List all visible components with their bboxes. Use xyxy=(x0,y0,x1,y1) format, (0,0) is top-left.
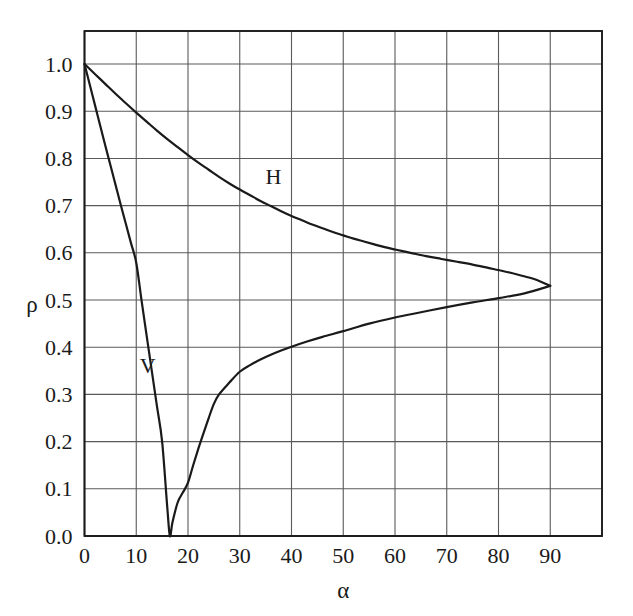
x-tick-label: 20 xyxy=(177,543,199,568)
x-tick-label: 40 xyxy=(281,543,303,568)
y-tick-label: 1.0 xyxy=(45,52,73,77)
y-tick-label: 0.4 xyxy=(45,335,73,360)
chart-canvas: 0.00.10.20.30.40.50.60.70.80.91.0 010203… xyxy=(0,0,633,616)
y-tick-label: 0.7 xyxy=(45,193,73,218)
curve-label-h: H xyxy=(265,164,281,189)
x-tick-label: 90 xyxy=(539,543,561,568)
x-tick-label: 30 xyxy=(229,543,251,568)
x-tick-label: 50 xyxy=(332,543,354,568)
y-tick-label: 0.1 xyxy=(45,476,73,501)
x-tick-label: 0 xyxy=(79,543,90,568)
x-tick-label: 80 xyxy=(488,543,510,568)
x-axis-title: α xyxy=(337,578,349,603)
y-tick-label: 0.8 xyxy=(45,146,73,171)
y-tick-label: 0.2 xyxy=(45,429,73,454)
x-tick-label: 10 xyxy=(125,543,147,568)
chart-figure: 0.00.10.20.30.40.50.60.70.80.91.0 010203… xyxy=(0,0,633,616)
y-tick-label: 0.3 xyxy=(45,382,73,407)
y-tick-label: 0.9 xyxy=(45,99,73,124)
y-axis-title: ρ xyxy=(26,292,37,317)
chart-background xyxy=(0,0,633,616)
y-tick-label: 0.6 xyxy=(45,240,73,265)
y-tick-label: 0.5 xyxy=(45,288,73,313)
x-tick-label: 70 xyxy=(436,543,458,568)
x-tick-label: 60 xyxy=(384,543,406,568)
y-tick-label: 0.0 xyxy=(45,524,73,549)
curve-label-v: V xyxy=(140,353,156,378)
